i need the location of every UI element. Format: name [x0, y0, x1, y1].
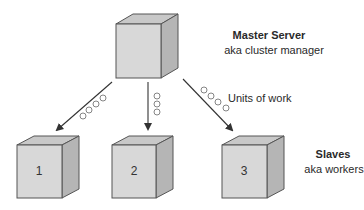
arrow-to-slave-1: [57, 82, 112, 130]
slave-1-label: 1: [36, 164, 43, 178]
master-subtitle: aka cluster manager: [224, 43, 324, 57]
slaves-title: Slaves: [316, 147, 351, 161]
slave-2-label: 2: [131, 164, 138, 178]
units-of-work-label: Units of work: [228, 91, 292, 105]
slave-cube-2: [112, 136, 173, 198]
master-title: Master Server: [233, 28, 306, 42]
slave-3-label: 3: [241, 164, 248, 178]
slaves-subtitle: aka workers: [304, 162, 363, 176]
master-server-cube: [116, 14, 178, 78]
work-units-2: [154, 93, 160, 115]
arrow-to-slave-3: [183, 79, 232, 130]
work-units-3: [201, 87, 229, 111]
slave-cube-1: [17, 136, 79, 198]
slave-cube-3: [222, 136, 284, 198]
